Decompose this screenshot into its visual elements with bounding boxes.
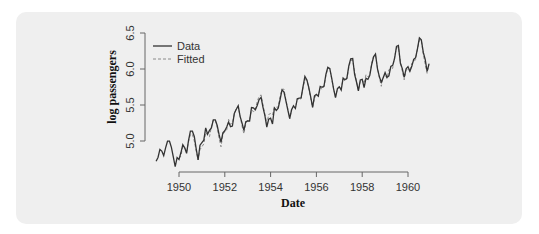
x-tick-label: 1954 xyxy=(258,181,282,193)
x-axis: 195019521954195619581960 xyxy=(167,172,420,193)
y-tick-label: 5.5 xyxy=(124,97,136,112)
x-tick-label: 1952 xyxy=(213,181,237,193)
x-tick-label: 1956 xyxy=(304,181,328,193)
y-tick-label: 6.5 xyxy=(124,25,136,40)
chart-svg: 5.05.56.06.5 195019521954195619581960 lo… xyxy=(0,0,539,234)
x-tick-label: 1958 xyxy=(350,181,374,193)
y-tick-label: 6.0 xyxy=(124,61,136,76)
y-tick-label: 5.0 xyxy=(124,133,136,148)
x-axis-title: Date xyxy=(281,196,306,210)
y-axis: 5.05.56.06.5 xyxy=(124,25,145,148)
y-axis-title: log passengers xyxy=(105,50,119,124)
legend-data-label: Data xyxy=(177,40,201,52)
x-tick-label: 1960 xyxy=(396,181,420,193)
x-tick-label: 1950 xyxy=(167,181,191,193)
legend: Data Fitted xyxy=(153,40,205,65)
legend-fitted-label: Fitted xyxy=(177,53,205,65)
fitted-series-line xyxy=(179,40,429,160)
